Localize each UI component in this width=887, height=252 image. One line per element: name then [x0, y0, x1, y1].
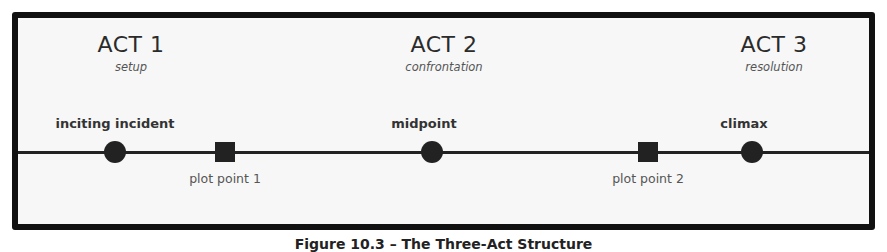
- act-3-subtitle: resolution: [674, 60, 874, 74]
- event-label-inciting-incident: inciting incident: [35, 116, 195, 131]
- act-3: ACT 3 resolution: [674, 32, 874, 74]
- circle-marker-icon: [741, 141, 763, 163]
- act-3-title: ACT 3: [674, 32, 874, 58]
- act-1: ACT 1 setup: [31, 32, 231, 74]
- event-label-climax: climax: [664, 116, 824, 131]
- circle-marker-icon: [421, 141, 443, 163]
- event-label-midpoint: midpoint: [344, 116, 504, 131]
- square-marker-icon: [215, 142, 235, 162]
- diagram-frame: ACT 1 setup ACT 2 confrontation ACT 3 re…: [12, 12, 875, 230]
- event-label-plot-point-2: plot point 2: [578, 171, 718, 186]
- square-marker-icon: [638, 142, 658, 162]
- act-2-title: ACT 2: [344, 32, 544, 58]
- circle-marker-icon: [104, 141, 126, 163]
- act-1-title: ACT 1: [31, 32, 231, 58]
- event-label-plot-point-1: plot point 1: [155, 171, 295, 186]
- figure-caption: Figure 10.3 – The Three-Act Structure: [0, 236, 887, 252]
- act-2: ACT 2 confrontation: [344, 32, 544, 74]
- act-2-subtitle: confrontation: [344, 60, 544, 74]
- act-1-subtitle: setup: [31, 60, 231, 74]
